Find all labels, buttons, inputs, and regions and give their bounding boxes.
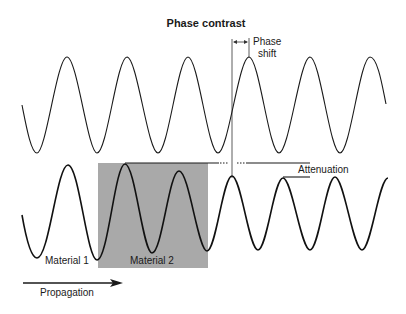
phase-shift-label-line1: Phase bbox=[253, 36, 282, 47]
propagation-arrow: Propagation bbox=[23, 279, 123, 298]
material-1-label: Material 1 bbox=[45, 255, 89, 266]
material-2-label: Material 2 bbox=[130, 255, 174, 266]
attenuation-label: Attenuation bbox=[298, 164, 349, 175]
phase-contrast-diagram: Phase contrast Phase shift Attenuation M… bbox=[0, 0, 406, 314]
phase-shift-label-line2: shift bbox=[258, 48, 277, 59]
propagation-label: Propagation bbox=[40, 287, 94, 298]
arrow-right-icon bbox=[244, 40, 248, 44]
reference-wave bbox=[22, 57, 386, 153]
arrow-left-icon bbox=[233, 40, 237, 44]
diagram-title: Phase contrast bbox=[167, 17, 246, 29]
phase-shift-annotation: Phase shift bbox=[232, 36, 282, 178]
